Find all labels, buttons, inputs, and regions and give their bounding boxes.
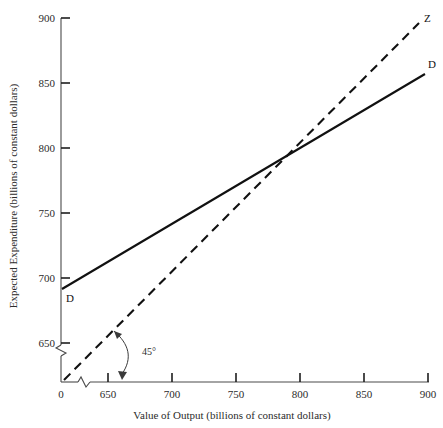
keynesian-cross-chart: 900 850 800 750 700 650 0 650 700 <box>0 0 443 428</box>
x-tick-label-850: 850 <box>356 388 373 400</box>
angle-arrowhead-lower <box>118 371 127 380</box>
chart-canvas: 900 850 800 750 700 650 0 650 700 <box>0 0 443 428</box>
angle-annotation: 45° <box>114 331 156 380</box>
series-label-d: D <box>428 58 436 70</box>
x-tick-label-800: 800 <box>292 388 309 400</box>
y-tick-label-800: 800 <box>39 142 56 154</box>
x-tick-label-700: 700 <box>164 388 181 400</box>
y-axis-title: Expected Expenditure (billions of consta… <box>7 83 20 308</box>
series-line-d <box>62 74 425 289</box>
x-axis-title: Value of Output (billions of constant do… <box>133 409 331 422</box>
y-axis: 900 850 800 750 700 650 <box>39 12 71 382</box>
x-axis-break-mark <box>78 377 90 387</box>
angle-label: 45° <box>142 346 156 357</box>
y-tick-label-850: 850 <box>39 77 56 89</box>
series-label-d-left: D <box>66 292 74 304</box>
series-label-z: Z <box>424 12 431 24</box>
y-tick-label-650: 650 <box>39 337 56 349</box>
y-tick-label-700: 700 <box>39 272 56 284</box>
x-tick-label-0: 0 <box>58 388 64 400</box>
angle-arc <box>114 331 128 374</box>
x-tick-label-650: 650 <box>100 388 117 400</box>
y-axis-break-mark <box>56 345 66 356</box>
y-tick-label-750: 750 <box>39 207 56 219</box>
x-axis: 0 650 700 750 800 850 900 <box>58 373 437 400</box>
x-tick-label-900: 900 <box>420 388 437 400</box>
y-tick-label-900: 900 <box>39 12 56 24</box>
series-line-z <box>64 23 419 380</box>
x-tick-label-750: 750 <box>228 388 245 400</box>
